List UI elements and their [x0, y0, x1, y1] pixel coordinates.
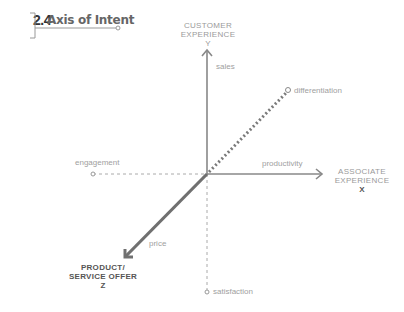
- header-bracket: [30, 13, 120, 38]
- y-axis-title-line2: EXPERIENCE: [166, 30, 250, 39]
- z-axis-title-line1: PRODUCT/: [68, 263, 138, 272]
- y-axis-title: CUSTOMER EXPERIENCE Y: [166, 21, 250, 48]
- label-engagement: engagement: [75, 158, 119, 167]
- x-axis-title-line2: EXPERIENCE: [326, 176, 398, 185]
- y-axis-letter: Y: [166, 39, 250, 48]
- x-axis-letter: X: [326, 185, 398, 194]
- label-differentiation: differentiation: [294, 86, 342, 95]
- z-axis-title-line2: SERVICE OFFER: [68, 272, 138, 281]
- z-axis-title: PRODUCT/ SERVICE OFFER Z: [68, 263, 138, 290]
- y-axis-title-line1: CUSTOMER: [166, 21, 250, 30]
- label-sales: sales: [216, 62, 235, 71]
- satisfaction-endpoint-icon: [205, 290, 209, 294]
- differentiation-endpoint-icon: [286, 88, 291, 93]
- label-satisfaction: satisfaction: [213, 287, 253, 296]
- label-productivity: productivity: [262, 159, 302, 168]
- label-price: price: [149, 239, 166, 248]
- x-axis-title-line1: ASSOCIATE: [326, 167, 398, 176]
- x-axis-title: ASSOCIATE EXPERIENCE X: [326, 167, 398, 194]
- engagement-endpoint-icon: [91, 172, 95, 176]
- z-axis-letter: Z: [68, 281, 138, 290]
